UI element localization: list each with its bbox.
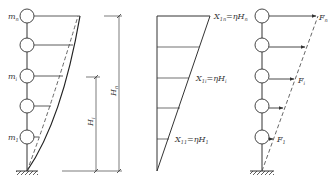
force-label-n: Fn — [318, 13, 328, 23]
deflection-linear-dashed — [27, 16, 78, 171]
mass-node — [255, 130, 269, 144]
panel-lateral-forces: Fn Fi F1 — [250, 9, 328, 175]
mass-node — [20, 130, 34, 144]
dim-hn-label: Hn — [109, 86, 119, 97]
mass-node — [20, 99, 34, 113]
ground-hatch — [16, 171, 38, 175]
panel-deformed-shape: mn mi m1 — [8, 9, 80, 175]
label-x1i: X1i=ηHi — [195, 74, 227, 84]
mass-node — [255, 9, 269, 23]
label-x11: X11=ηH1 — [174, 135, 209, 145]
mass-node — [255, 99, 269, 113]
force-label-1: F1 — [276, 135, 286, 145]
mass-node — [255, 38, 269, 52]
mass-label-1: m1 — [8, 133, 19, 143]
mass-node — [20, 69, 34, 83]
panel-displacement-triangle: X1n=ηHn X1i=ηHi X11=ηH1 — [157, 12, 248, 171]
label-x1n: X1n=ηHn — [213, 12, 248, 22]
mass-label-i: mi — [8, 72, 18, 82]
deflection-curve — [27, 16, 80, 171]
mass-node — [20, 38, 34, 52]
mass-node — [255, 69, 269, 83]
structure-diagram: mn mi m1 Hi Hn X1n=ηHn X1i=ηHi X11=ηH1 — [0, 0, 331, 188]
mass-node — [20, 9, 34, 23]
force-label-i: Fi — [297, 76, 306, 86]
mass-label-n: mn — [8, 12, 19, 22]
ground-hatch — [250, 171, 274, 175]
force-envelope-dashed — [262, 16, 318, 171]
dim-hi-label: Hi — [86, 117, 96, 127]
displacement-triangle — [157, 16, 210, 171]
